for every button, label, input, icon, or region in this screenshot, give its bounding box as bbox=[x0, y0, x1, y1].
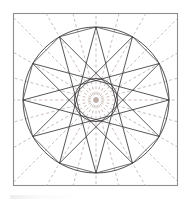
geometric-figure bbox=[0, 0, 191, 202]
caption-smudge bbox=[10, 195, 72, 199]
figure-root bbox=[0, 0, 191, 202]
